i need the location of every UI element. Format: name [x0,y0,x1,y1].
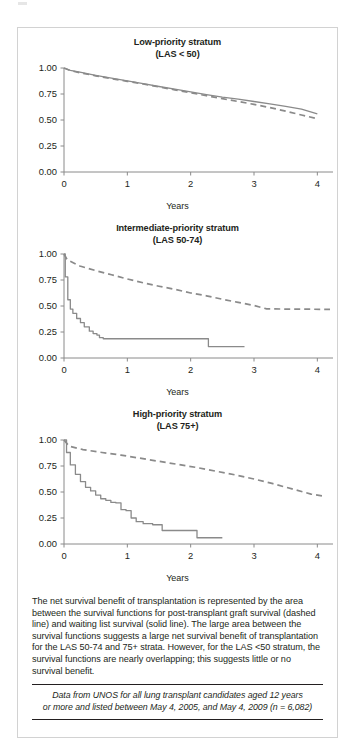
xtick-label: 0 [61,364,66,375]
ytick-label: 0.00 [39,538,57,549]
ytick-label: 0.75 [39,88,57,99]
ytick-label: 1.00 [39,62,57,73]
xtick-label: 1 [125,364,130,375]
ytick-label: 1.00 [39,248,57,259]
panel-title-intermediate: Intermediate-priority stratum (LAS 50-74… [18,223,337,246]
panel-title-low: Low-priority stratum (LAS < 50) [18,37,337,60]
ytick-label: 0.25 [39,326,57,337]
xtick-label: 1 [125,550,130,561]
xtick-label: 2 [188,178,193,189]
plot-svg-high: 0.000.250.500.751.0001234 [18,432,339,572]
xtick-label: 1 [125,178,130,189]
xtick-label: 4 [315,178,320,189]
xtick-label: 0 [61,178,66,189]
figure-source-text: Data from UNOS for all lung transplant c… [34,690,321,713]
caption-text: The net survival benefit of transplantat… [32,596,323,677]
panel-subtitle-text: (LAS 50-74) [18,235,337,247]
panel-title-text: High-priority stratum [133,409,222,419]
ytick-label: 0.00 [39,166,57,177]
xtick-label: 4 [315,364,320,375]
panel-high-priority: High-priority stratum (LAS 75+) 0.000.25… [18,409,337,583]
series-line-solid [64,440,222,538]
ytick-label: 0.25 [39,512,57,523]
panel-title-text: Low-priority stratum [134,37,221,47]
xtick-label: 3 [251,364,256,375]
ytick-label: 0.50 [39,486,57,497]
xtick-label: 0 [61,550,66,561]
plot-intermediate-priority: 0.000.250.500.751.0001234 [18,246,339,389]
plot-high-priority: 0.000.250.500.751.0001234 [18,432,339,575]
xtick-label: 3 [251,178,256,189]
panel-title-high: High-priority stratum (LAS 75+) [18,409,337,432]
ytick-label: 0.75 [39,460,57,471]
series-line-dashed [64,68,317,119]
figure-caption: The net survival benefit of transplantat… [18,596,337,677]
panel-title-text: Intermediate-priority stratum [116,223,239,233]
plot-low-priority: 0.000.250.500.751.0001234 [18,60,339,203]
xtick-label: 4 [315,550,320,561]
page-artifact-mark [18,2,27,5]
ytick-label: 0.50 [39,114,57,125]
ytick-label: 0.25 [39,140,57,151]
panel-subtitle-text: (LAS < 50) [18,49,337,61]
xtick-label: 2 [188,364,193,375]
ytick-label: 0.00 [39,352,57,363]
ytick-label: 0.50 [39,300,57,311]
panel-low-priority: Low-priority stratum (LAS < 50) 0.000.25… [18,37,337,211]
ytick-label: 0.75 [39,274,57,285]
xtick-label: 3 [251,550,256,561]
series-line-solid [64,68,317,114]
panel-subtitle-text: (LAS 75+) [18,421,337,433]
series-line-dashed [64,440,324,496]
panel-intermediate-priority: Intermediate-priority stratum (LAS 50-74… [18,223,337,397]
ytick-label: 1.00 [39,434,57,445]
plot-svg-low: 0.000.250.500.751.0001234 [18,60,339,200]
figure-source-block: Data from UNOS for all lung transplant c… [32,684,323,720]
xtick-label: 2 [188,550,193,561]
plot-svg-intermediate: 0.000.250.500.751.0001234 [18,246,339,386]
series-line-dashed [64,254,330,309]
series-line-solid [64,254,245,347]
source-line-2: or more and listed between May 4, 2005, … [34,702,321,713]
figure-container: Low-priority stratum (LAS < 50) 0.000.25… [17,27,338,738]
source-line-1: Data from UNOS for all lung transplant c… [34,690,321,701]
